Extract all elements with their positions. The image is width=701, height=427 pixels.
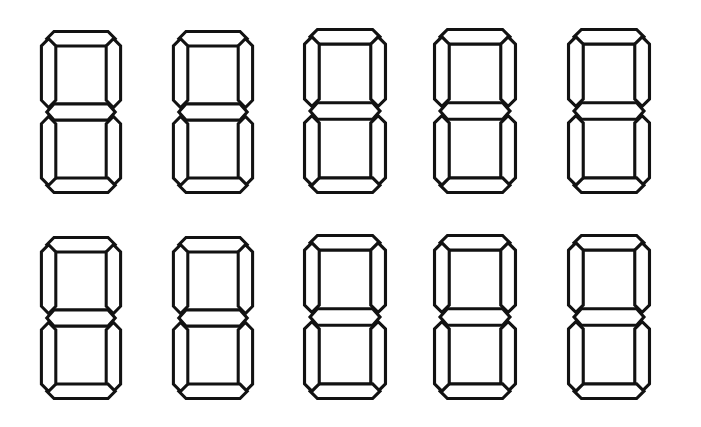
segment-middle (440, 309, 510, 325)
seven-segment-digit (429, 24, 521, 198)
segment-top-right (238, 245, 252, 314)
segment-top (47, 237, 115, 251)
seven-segment-digit (429, 230, 521, 404)
segment-bottom-left (569, 116, 584, 186)
segment-top-right (635, 243, 650, 313)
seven-segment-digit (168, 232, 258, 404)
segment-top-left (173, 39, 187, 108)
segment-bottom-right (635, 116, 650, 186)
segment-bottom (574, 178, 644, 193)
segment-top-left (435, 37, 450, 107)
segment-bottom-right (238, 117, 252, 186)
segment-bottom (310, 178, 380, 193)
segment-top-left (41, 39, 55, 108)
segment-bottom (440, 384, 510, 399)
segment-top-left (173, 245, 187, 314)
segment-bottom-right (238, 323, 252, 392)
segment-bottom-right (371, 116, 386, 186)
segment-middle (310, 309, 380, 325)
segment-top (574, 235, 644, 250)
segment-bottom-right (501, 116, 516, 186)
segment-top-left (569, 37, 584, 107)
segment-middle (179, 104, 247, 120)
seven-segment-digit (168, 26, 258, 198)
segment-top-right (635, 37, 650, 107)
segment-bottom (47, 384, 115, 398)
segment-top (179, 237, 247, 251)
segment-middle (179, 310, 247, 326)
segment-bottom-left (41, 323, 55, 392)
segment-middle (440, 103, 510, 119)
segment-bottom-right (501, 322, 516, 392)
seven-segment-digit (299, 24, 391, 198)
segment-top-right (501, 37, 516, 107)
segment-top-left (435, 243, 450, 313)
segment-top (310, 29, 380, 44)
segment-top (574, 29, 644, 44)
segment-top-right (371, 37, 386, 107)
segment-middle (574, 103, 644, 119)
segment-top (440, 29, 510, 44)
segment-bottom-left (305, 322, 320, 392)
segment-bottom-right (371, 322, 386, 392)
segment-middle (574, 309, 644, 325)
seven-segment-digit (563, 230, 655, 404)
segment-bottom-left (41, 117, 55, 186)
segment-bottom-left (435, 322, 450, 392)
segment-top (47, 31, 115, 45)
seven-segment-digit (36, 26, 126, 198)
segment-top-left (41, 245, 55, 314)
seven-segment-digit (299, 230, 391, 404)
digit-canvas (0, 0, 701, 427)
segment-bottom-left (173, 117, 187, 186)
segment-top-right (106, 39, 120, 108)
segment-bottom-right (106, 117, 120, 186)
segment-bottom-left (569, 322, 584, 392)
segment-top (179, 31, 247, 45)
segment-bottom (574, 384, 644, 399)
segment-bottom-right (635, 322, 650, 392)
segment-top (310, 235, 380, 250)
segment-top-right (501, 243, 516, 313)
segment-top-left (305, 37, 320, 107)
seven-segment-digit (563, 24, 655, 198)
segment-bottom-left (173, 323, 187, 392)
segment-top-right (106, 245, 120, 314)
segment-bottom (440, 178, 510, 193)
segment-top-left (305, 243, 320, 313)
segment-top-right (238, 39, 252, 108)
segment-top (440, 235, 510, 250)
segment-top-right (371, 243, 386, 313)
segment-bottom (47, 178, 115, 192)
seven-segment-digit (36, 232, 126, 404)
seven-segment-digit-grid (0, 0, 701, 427)
segment-top-left (569, 243, 584, 313)
segment-bottom (179, 384, 247, 398)
segment-middle (310, 103, 380, 119)
segment-middle (47, 104, 115, 120)
segment-middle (47, 310, 115, 326)
segment-bottom-right (106, 323, 120, 392)
segment-bottom (310, 384, 380, 399)
segment-bottom-left (305, 116, 320, 186)
segment-bottom (179, 178, 247, 192)
segment-bottom-left (435, 116, 450, 186)
